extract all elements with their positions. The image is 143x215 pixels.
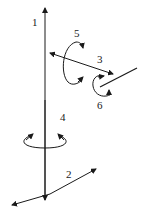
dof-diagram: 1 2 3 4 5 6 <box>0 0 143 215</box>
label-3: 3 <box>97 53 103 65</box>
label-2: 2 <box>66 168 72 180</box>
label-4: 4 <box>60 111 66 123</box>
axis-3 <box>50 53 113 74</box>
label-6: 6 <box>97 99 103 111</box>
label-5: 5 <box>74 27 80 39</box>
axis-6-line <box>100 68 137 87</box>
axis-2 <box>12 169 96 205</box>
label-1: 1 <box>32 16 38 28</box>
